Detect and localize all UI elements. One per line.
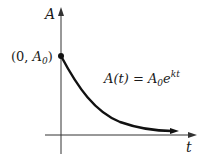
decay-curve [61,56,172,131]
initial-point-label: (0, A0) [11,50,53,66]
eq-sup: kt [171,69,180,79]
y-axis-label: A [45,7,55,21]
point-open: (0, [11,49,33,64]
point-close: ) [48,49,53,64]
eq-e: e [163,71,171,86]
eq-lhs: A(t) = [104,71,148,86]
y-axis-arrow-icon [58,7,64,16]
curve-arrow-icon [170,128,179,134]
eq-A: A [148,71,157,86]
initial-point [58,53,64,59]
x-axis-arrow-icon [188,132,197,138]
function-equation: A(t) = A0ekt [104,70,180,88]
x-axis-label: t [186,140,192,154]
point-var: A [33,49,42,64]
